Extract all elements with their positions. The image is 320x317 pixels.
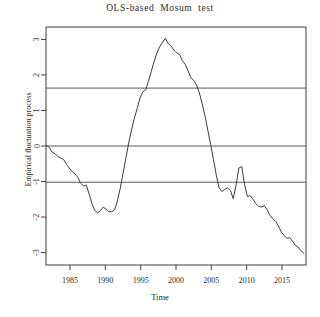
x-tick-label: 2005: [203, 276, 219, 285]
x-tick-label: 2000: [168, 276, 184, 285]
y-tick-label: -1: [33, 178, 42, 185]
y-axis-label: Empirical fluctuation process: [24, 60, 33, 220]
x-axis-label: Time: [0, 292, 320, 302]
x-tick-label: 2015: [274, 276, 290, 285]
x-axis-ticks: 1985199019952000200520102015: [62, 265, 290, 285]
y-tick-label: -2: [33, 214, 42, 221]
y-tick-label: 0: [33, 144, 42, 148]
y-tick-label: -3: [33, 249, 42, 256]
chart-figure: OLS-based Mosum test 3210-1-2-3 19851990…: [0, 0, 320, 317]
boundary-lines: [46, 88, 306, 182]
y-tick-label: 1: [33, 108, 42, 112]
y-tick-label: 3: [33, 37, 42, 41]
plot-canvas: 3210-1-2-3 1985199019952000200520102015: [0, 0, 320, 317]
y-axis-ticks: 3210-1-2-3: [33, 37, 47, 255]
chart-title: OLS-based Mosum test: [0, 3, 320, 13]
x-tick-label: 1990: [97, 276, 113, 285]
x-tick-label: 2010: [239, 276, 255, 285]
x-tick-label: 1995: [133, 276, 149, 285]
x-tick-label: 1985: [62, 276, 78, 285]
y-tick-label: 2: [33, 73, 42, 77]
